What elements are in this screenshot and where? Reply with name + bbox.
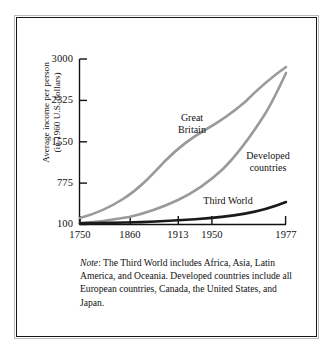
x-tick-label-1860: 1860 — [110, 229, 150, 240]
great-britain-label: Great Britain — [165, 112, 219, 135]
y-axis-title-line1: Average income per person — [41, 62, 51, 163]
developed-countries-label-line1: Developed — [246, 150, 289, 161]
developed-countries-label: Developed countries — [237, 150, 299, 173]
figure-page: 3000 2325 1550 775 100 1750 1860 1913 19… — [0, 0, 333, 353]
figure-frame: 3000 2325 1550 775 100 1750 1860 1913 19… — [16, 17, 317, 337]
x-tick-label-1977: 1977 — [266, 229, 306, 240]
great-britain-label-line1: Great — [181, 112, 203, 123]
developed-countries-label-line2: countries — [250, 162, 287, 173]
note-text: The Third World includes Africa, Asia, L… — [80, 257, 292, 308]
y-tick-label-100: 100 — [39, 218, 73, 229]
figure-note: Note: The Third World includes Africa, A… — [80, 256, 298, 309]
note-label: Note — [80, 257, 98, 268]
x-tick-label-1950: 1950 — [192, 229, 232, 240]
x-tick-label-1750: 1750 — [60, 229, 100, 240]
y-axis-title-line2: (in 1960 U.S. dollars) — [51, 53, 62, 173]
great-britain-label-line2: Britain — [178, 124, 206, 135]
third-world-label: Third World — [193, 195, 263, 207]
y-tick-label-775: 775 — [39, 177, 73, 188]
chart-plot-area: 3000 2325 1550 775 100 1750 1860 1913 19… — [17, 18, 318, 250]
y-axis-title: Average income per person (in 1960 U.S. … — [41, 53, 62, 173]
